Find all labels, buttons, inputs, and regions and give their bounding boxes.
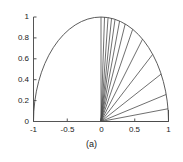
radial-rays-group (101, 17, 169, 122)
ray-15deg (101, 94, 166, 121)
x-tick-label-0: 0 (87, 126, 116, 134)
y-tick-label-1: 1 (4, 13, 29, 21)
ray-52deg (101, 39, 143, 121)
figure-panel: 1 0.8 0.6 0.4 0.2 0 -1 -0.5 0 0.5 1 (a) (0, 0, 183, 162)
x-tick-label-1: 1 (154, 126, 183, 134)
y-tick-label-0.6: 0.6 (4, 55, 29, 63)
x-tick-label-0.5: 0.5 (120, 126, 149, 134)
y-tick-label-0: 0 (4, 118, 29, 126)
y-tick-label-0.8: 0.8 (4, 34, 29, 42)
y-tick-label-0.2: 0.2 (4, 97, 29, 105)
y-tick-label-0.4: 0.4 (4, 76, 29, 84)
x-tick-label-minus0.5: -0.5 (53, 126, 82, 134)
x-tick-label-minus1: -1 (19, 126, 48, 134)
ray-27deg (101, 74, 161, 121)
figure-caption: (a) (0, 140, 183, 149)
